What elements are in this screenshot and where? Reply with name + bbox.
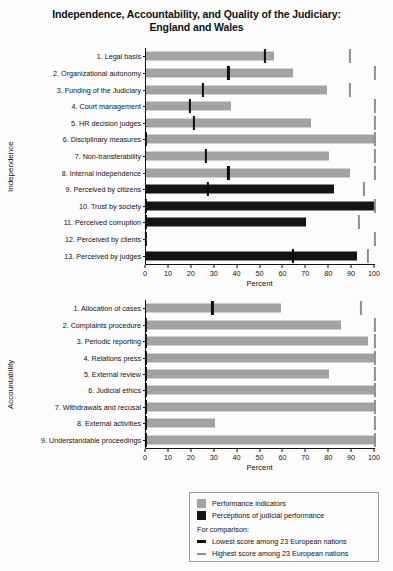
- x-axis-title-accountability: Percent: [145, 463, 374, 472]
- x-axis-tick: [213, 449, 214, 452]
- chart-row: 8. Internal independence: [146, 164, 375, 181]
- lowest-score-marker: [291, 249, 293, 263]
- chart-row: 5. HR decision judges: [146, 114, 375, 131]
- x-axis-tick: [282, 265, 283, 268]
- bar-performance: [146, 68, 293, 77]
- lowest-score-marker: [204, 149, 206, 163]
- chart-title: Independence, Accountability, and Qualit…: [0, 8, 393, 34]
- x-axis-tick-label: 50: [256, 269, 264, 278]
- x-axis-tick-label: 30: [210, 269, 218, 278]
- category-label: 2. Organizational autonomy: [53, 68, 141, 77]
- chart-row: 2. Complaints procedure: [146, 316, 375, 332]
- x-axis-tick-label: 40: [233, 269, 241, 278]
- legend-label-performance: Performance indicators: [212, 499, 286, 508]
- x-axis-tick: [282, 449, 283, 452]
- category-label: 10. Trust by society: [79, 201, 141, 210]
- x-axis-tick-label: 0: [143, 453, 147, 462]
- performance-swatch-icon: [197, 499, 206, 508]
- highest-score-marker: [374, 232, 376, 246]
- bar-performance: [146, 386, 375, 395]
- chart-row: 5. External review: [146, 366, 375, 382]
- category-label: 5. External review: [84, 369, 141, 378]
- category-label: 7. Withdrawals and recusal: [55, 402, 141, 411]
- x-axis-tick: [236, 265, 237, 268]
- bar-perception: [146, 185, 334, 194]
- category-label: 3. Funding of the Judiciary: [57, 85, 141, 94]
- x-axis-tick: [167, 265, 168, 268]
- category-label: 8. External activities: [77, 419, 141, 428]
- highest-score-marker: [374, 116, 376, 130]
- chart-row: 1. Allocation of cases: [146, 300, 375, 316]
- x-axis-tick-label: 70: [301, 269, 309, 278]
- bar-performance: [146, 304, 281, 313]
- legend: Performance indicators Perceptions of ju…: [189, 492, 379, 562]
- x-axis-tick: [374, 265, 375, 268]
- x-axis-tick: [236, 449, 237, 452]
- highest-score-marker: [374, 400, 376, 414]
- x-axis-tick: [328, 265, 329, 268]
- y-axis-label-accountability: Accountability: [6, 324, 15, 444]
- highest-score-marker: [349, 83, 351, 97]
- legend-item-performance: Performance indicators: [197, 499, 371, 508]
- perception-swatch-icon: [197, 511, 206, 520]
- bar-performance: [146, 320, 341, 329]
- chart-row: 11. Perceived corruption: [146, 214, 375, 231]
- lowest-score-marker: [145, 400, 147, 414]
- x-axis-tick: [305, 449, 306, 452]
- category-label: 4. Court management: [71, 102, 141, 111]
- x-axis-tick-label: 90: [347, 269, 355, 278]
- chart-row: 1. Legal basis: [146, 48, 375, 65]
- highest-score-marker: [374, 166, 376, 180]
- chart-row: 8. External activities: [146, 415, 375, 431]
- lowest-marker-icon: [197, 540, 206, 543]
- category-label: 11. Perceived corruption: [64, 218, 141, 227]
- lowest-score-marker: [145, 132, 147, 146]
- chart-row: 7. Withdrawals and recusal: [146, 399, 375, 415]
- x-axis-tick-label: 90: [347, 453, 355, 462]
- lowest-score-marker: [145, 199, 147, 213]
- panel-independence: Independence 1. Legal basis2. Organizati…: [0, 42, 393, 292]
- chart-row: 10. Trust by society: [146, 198, 375, 215]
- category-label: 13. Perceived by judges: [64, 251, 141, 260]
- chart-row: 13. Perceived by judges: [146, 247, 375, 264]
- highest-score-marker: [374, 199, 376, 213]
- highest-score-marker: [358, 215, 360, 229]
- bar-performance: [146, 151, 329, 160]
- x-axis-tick-label: 20: [187, 269, 195, 278]
- category-label: 5. HR decision judges: [71, 118, 141, 127]
- bar-performance: [146, 419, 215, 428]
- category-label: 3. Periodic reporting: [77, 337, 141, 346]
- lowest-score-marker: [264, 49, 266, 63]
- highest-score-marker: [374, 66, 376, 80]
- lowest-score-marker: [145, 334, 147, 348]
- highest-score-marker: [374, 433, 376, 447]
- bar-perception: [146, 251, 357, 260]
- category-label: 9. Perceived by citizens: [65, 185, 141, 194]
- x-axis-tick: [213, 265, 214, 268]
- x-axis-tick-label: 100: [368, 453, 380, 462]
- category-label: 7. Non-transferability: [75, 151, 141, 160]
- chart-row: 4. Relations press: [146, 349, 375, 365]
- x-axis-tick-label: 100: [368, 269, 380, 278]
- x-axis-tick-label: 30: [210, 453, 218, 462]
- highest-score-marker: [362, 182, 364, 196]
- highest-score-marker: [374, 416, 376, 430]
- highest-score-marker: [374, 318, 376, 332]
- bar-performance: [146, 52, 274, 61]
- category-label: 12. Perceived by clients: [65, 235, 141, 244]
- lowest-score-marker: [211, 301, 213, 315]
- highest-score-marker: [360, 301, 362, 315]
- x-axis-tick: [145, 449, 146, 452]
- x-axis-tick: [145, 265, 146, 268]
- lowest-score-marker: [145, 433, 147, 447]
- highest-score-marker: [367, 249, 369, 263]
- lowest-score-marker: [145, 215, 147, 229]
- x-axis-tick: [328, 449, 329, 452]
- highest-score-marker: [374, 149, 376, 163]
- chart-title-line1: Independence, Accountability, and Qualit…: [52, 8, 341, 20]
- highest-score-marker: [374, 383, 376, 397]
- x-axis-tick-label: 10: [164, 269, 172, 278]
- lowest-score-marker: [145, 416, 147, 430]
- lowest-score-marker: [207, 182, 209, 196]
- bar-perception: [146, 201, 375, 210]
